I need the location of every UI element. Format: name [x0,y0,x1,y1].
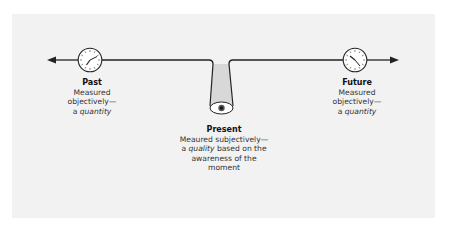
past-clock-icon [78,48,102,72]
future-label: Future Measured objectively— a quantity [325,78,389,116]
present-line2: a quality based on the [160,144,288,154]
past-line2: objectively— [62,97,122,107]
present-line1: Meaured subjectively— [160,135,288,145]
future-line3-prefix: a [338,107,345,116]
present-line3: awareness of the [160,154,288,164]
future-line1: Measured [325,88,389,98]
present-line2-suffix: based on the [214,144,266,153]
future-quantity-emphasis: quantity [345,107,377,116]
future-clock-icon [343,48,367,72]
past-quantity-emphasis: quantity [80,107,112,116]
eye-icon [210,102,233,114]
present-line2-prefix: a [181,144,188,153]
past-line3: a quantity [62,107,122,117]
present-quality-emphasis: quality [189,144,215,153]
past-title: Past [62,78,122,88]
timeline-past-to-present-line [102,60,213,64]
present-label: Present Meaured subjectively— a quality … [160,125,288,173]
arrow-right-icon [390,57,399,64]
past-line1: Measured [62,88,122,98]
future-line2: objectively— [325,97,389,107]
arrow-left-icon [47,57,56,64]
present-funnel [210,64,233,106]
past-line3-prefix: a [73,107,80,116]
timeline-present-to-future-line [229,60,343,64]
future-title: Future [325,78,389,88]
present-line4: moment [160,163,288,173]
present-title: Present [160,125,288,135]
future-line3: a quantity [325,107,389,117]
past-label: Past Measured objectively— a quantity [62,78,122,116]
